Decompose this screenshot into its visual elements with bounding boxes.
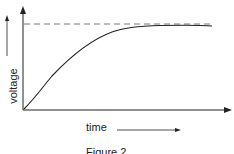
x-axis-label: time [86, 121, 107, 133]
y-axis-label: voltage [7, 51, 19, 121]
y-axis-arrowhead-icon [20, 6, 26, 14]
voltage-arrow-icon [5, 15, 9, 21]
time-arrow-icon [175, 128, 181, 132]
x-axis-arrowhead-icon [224, 107, 232, 113]
voltage-time-chart [0, 0, 234, 154]
voltage-curve [24, 25, 212, 109]
figure-caption: Figure 2 [86, 146, 126, 154]
